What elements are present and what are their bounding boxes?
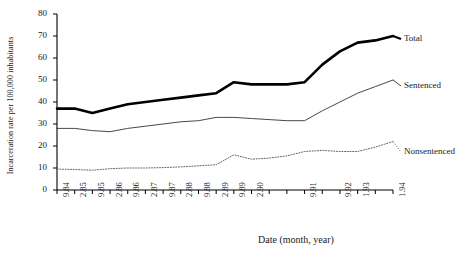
chart-figure: Incarceration rate per 100,000 inhabitan… [0, 0, 459, 256]
x-tick-label: 2.87 [149, 182, 159, 197]
x-tick-label: 9.87 [167, 182, 177, 197]
plot-area [0, 0, 459, 256]
series-line-total [57, 36, 393, 113]
axes [57, 14, 393, 190]
x-tick-label: 1.93 [361, 182, 371, 197]
x-tick-label: 2.89 [220, 182, 230, 197]
x-tick-label: 9.86 [131, 182, 141, 197]
series-label-nonsentenced: Nonsentenced [404, 146, 455, 156]
series-leader-lines [393, 36, 401, 152]
x-tick-label: 2.88 [184, 182, 194, 197]
x-tick-label: 9.91 [308, 182, 318, 197]
y-tick-label: 30 [25, 118, 47, 128]
series-lines [57, 36, 393, 170]
y-tick-label: 20 [25, 140, 47, 150]
x-tick-label: 9.92 [343, 182, 353, 197]
series-line-nonsentenced [57, 142, 393, 171]
x-tick-label: 2.90 [255, 182, 265, 197]
y-tick-label: 50 [25, 74, 47, 84]
x-tick-label: 1.94 [397, 182, 407, 197]
y-tick-label: 70 [25, 30, 47, 40]
x-tick-label: 2.86 [114, 182, 124, 197]
y-tick-label: 40 [25, 96, 47, 106]
y-tick-label: 60 [25, 52, 47, 62]
y-tick-label: 80 [25, 8, 47, 18]
x-tick-label: 9.85 [96, 182, 106, 197]
y-tick-label: 10 [25, 162, 47, 172]
x-axis-title: Date (month, year) [258, 234, 334, 245]
y-axis-ticks [53, 14, 57, 190]
leader-line-sentenced [393, 80, 401, 86]
leader-line-nonsentenced [393, 142, 401, 152]
x-tick-label: 9.88 [202, 182, 212, 197]
y-tick-label: 0 [25, 184, 47, 194]
series-label-sentenced: Sentenced [404, 80, 441, 90]
series-label-total: Total [404, 33, 422, 43]
x-tick-label: 9.84 [61, 182, 71, 197]
leader-line-total [393, 36, 401, 39]
x-tick-label: 9.89 [237, 182, 247, 197]
x-tick-label: 2.85 [78, 182, 88, 197]
